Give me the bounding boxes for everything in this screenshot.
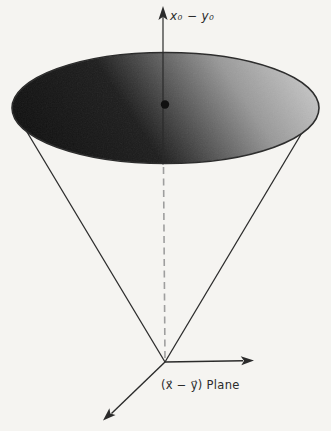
plane-lower-left-arrowhead-icon bbox=[103, 408, 116, 420]
cone-diagram bbox=[0, 0, 331, 431]
plane-lower-left-axis-line bbox=[112, 362, 166, 414]
figure-canvas: x₀ − y₀ (x⃗ − y⃗) Plane bbox=[0, 0, 331, 431]
axis-dashed-line bbox=[164, 167, 166, 360]
plane-label: (x⃗ − y⃗) Plane bbox=[161, 380, 240, 392]
plane-right-axis-line bbox=[165, 361, 243, 362]
center-point bbox=[161, 100, 169, 108]
time-axis-label: x₀ − y₀ bbox=[170, 10, 214, 22]
